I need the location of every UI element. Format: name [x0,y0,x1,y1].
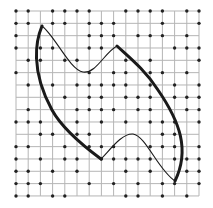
grid-dot [100,22,103,25]
grid-dot [14,145,17,148]
grid-dot [75,170,78,173]
grid-dot [112,108,115,111]
grid-dot [161,133,164,136]
grid-dot [185,71,188,74]
grid-dot [197,59,200,62]
grid-dot [63,145,66,148]
grid-dot [161,120,164,123]
grid-dot [100,96,103,99]
grid-dot [124,194,127,197]
grid-dot [124,9,127,12]
grid-dot [149,145,152,148]
grid-dot [14,182,17,185]
grid-dot [185,46,188,49]
grid-dot [75,83,78,86]
grid-dot [149,83,152,86]
grid-dot [51,9,54,12]
grid-dot [75,59,78,62]
grid-dot [39,182,42,185]
grid-dot [88,182,91,185]
grid-dot [149,96,152,99]
grid-dot [136,182,139,185]
grid-dot [185,170,188,173]
grid-dot [149,120,152,123]
grid-dot [100,145,103,148]
grid-dot [173,46,176,49]
grid-dot [88,22,91,25]
grid-dot [185,157,188,160]
grid-dot [149,157,152,160]
grid-dot [112,34,115,37]
grid-dot [63,157,66,160]
grid-dot [136,108,139,111]
grid-dot [161,71,164,74]
closed-curve-shape [36,26,182,181]
grid-dot [27,108,30,111]
grid-lines [16,11,199,196]
grid-dot [88,108,91,111]
grid-dot [27,9,30,12]
grid-dot [149,34,152,37]
grid-dot [88,46,91,49]
grid-dot [136,9,139,12]
grid-dot [197,9,200,12]
grid-dot [124,96,127,99]
grid-dot [185,194,188,197]
grid-dot [14,9,17,12]
grid-dot [197,182,200,185]
grid-dot [14,34,17,37]
thick-right-arc [117,46,182,181]
grid-dot [75,133,78,136]
grid-dot [197,120,200,123]
grid-dot [124,120,127,123]
grid-dot [39,46,42,49]
grid-dot [197,108,200,111]
grid-dot [88,9,91,12]
grid-dot [136,34,139,37]
grid-dot [124,59,127,62]
grid-dot [173,145,176,148]
grid-dot [14,120,17,123]
grid-dot [51,170,54,173]
grid-dot [27,145,30,148]
grid-dot [136,157,139,160]
grid-dot [88,83,91,86]
grid-dot [51,22,54,25]
grid-dot [100,83,103,86]
grid-dot [14,157,17,160]
grid-dot [75,9,78,12]
grid-dot [14,46,17,49]
grid-dot [185,96,188,99]
grid-dot [27,59,30,62]
grid-dot [197,46,200,49]
grid-dot [124,83,127,86]
grid-dot [51,83,54,86]
grid-dot [63,59,66,62]
grid-dot [63,96,66,99]
grid-dot [149,108,152,111]
grid-dot [173,157,176,160]
grid-dot [51,46,54,49]
grid-dot [88,133,91,136]
grid-dot [173,96,176,99]
grid-dot [173,83,176,86]
grid-dot [14,22,17,25]
grid-dot [63,194,66,197]
grid-dot [124,157,127,160]
grid-dot [197,22,200,25]
grid-dot [161,9,164,12]
grid-dot [14,170,17,173]
grid-dot [136,194,139,197]
grid-dot [39,120,42,123]
grid-dot [39,59,42,62]
grid-dot [14,71,17,74]
grid-dot [27,170,30,173]
grid-dot [185,108,188,111]
grid-dot [197,145,200,148]
grid-dot [161,194,164,197]
grid-dot [197,83,200,86]
thick-left-arc [36,26,101,159]
grid-dot [51,133,54,136]
grid-dot [149,170,152,173]
grid-dot [149,71,152,74]
